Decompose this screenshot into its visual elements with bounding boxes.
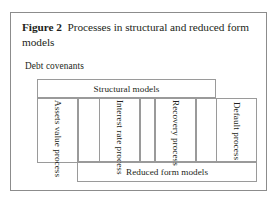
structural-cell-gap-2 — [140, 98, 155, 163]
assets-value-process-box: Assets value process — [37, 98, 78, 163]
recovery-process-box: Recovery process — [155, 98, 196, 163]
debt-covenants-label: Debt covenants — [25, 61, 84, 72]
recovery-process-label: Recovery process — [170, 100, 181, 162]
structural-cell-gap-1 — [78, 98, 99, 163]
default-process-box: Default process — [216, 98, 257, 163]
interest-rate-process-box: Interest rate process — [99, 98, 140, 163]
assets-value-process-label: Assets value process — [52, 100, 63, 162]
figure-frame: Figure 2 Processes in structural and red… — [10, 12, 267, 191]
structural-models-box: Structural models — [37, 79, 216, 98]
figure-caption: Figure 2 Processes in structural and red… — [22, 20, 254, 49]
process-diagram: Structural models Assets value process I… — [37, 79, 257, 182]
structural-cell-gap-3 — [196, 98, 216, 163]
structural-models-label: Structural models — [38, 84, 215, 94]
reduced-form-models-box: Reduced form models — [77, 161, 257, 182]
figure-label: Figure 2 — [22, 21, 62, 33]
default-process-label: Default process — [231, 100, 242, 162]
reduced-form-models-label: Reduced form models — [78, 167, 256, 177]
interest-rate-process-label: Interest rate process — [114, 100, 125, 162]
